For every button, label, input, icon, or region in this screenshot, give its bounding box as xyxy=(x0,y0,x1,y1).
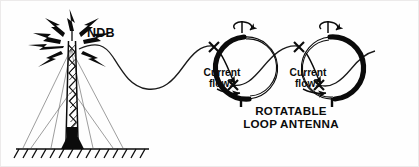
rotatable-loop-antenna-2: Current flows xyxy=(290,21,364,107)
rotation-arrow-icon xyxy=(234,21,252,33)
rotation-arrow-icon-2 xyxy=(320,21,338,33)
caption-line-2: LOOP ANTENNA xyxy=(243,117,339,130)
current-flows-label-line1: Current xyxy=(204,67,241,78)
current-flows-label-2-line1: Current xyxy=(290,67,327,78)
diagram-canvas: NDB Current flows xyxy=(1,1,419,167)
current-flows-label-2-line2: flows xyxy=(295,78,321,89)
caption-line-1: ROTATABLE xyxy=(255,104,327,117)
current-flows-label-line2: flows xyxy=(209,78,235,89)
ndb-loop-antenna-diagram: NDB Current flows xyxy=(0,0,419,167)
ground xyxy=(14,149,149,158)
rotatable-loop-antenna-1: Current flows xyxy=(204,21,278,107)
ndb-label: NDB xyxy=(87,26,115,40)
